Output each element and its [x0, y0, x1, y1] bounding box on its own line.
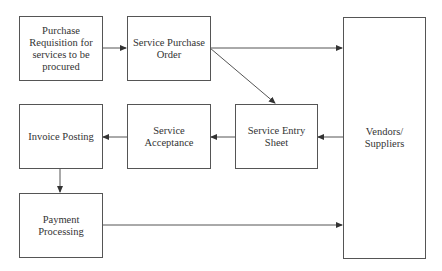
node-payment-processing: Payment Processing	[19, 193, 103, 258]
node-label: Vendors/ Suppliers	[360, 126, 410, 150]
edge-po-to-entry-sheet	[210, 48, 275, 103]
node-invoice-posting: Invoice Posting	[19, 104, 103, 169]
node-label: Service Purchase Order	[132, 37, 206, 61]
node-purchase-requisition: Purchase Requisition for services to be …	[19, 16, 103, 81]
node-service-acceptance: Service Acceptance	[127, 104, 211, 169]
node-label: Purchase Requisition for services to be …	[24, 25, 98, 73]
node-label: Invoice Posting	[28, 131, 94, 143]
node-service-purchase-order: Service Purchase Order	[127, 16, 211, 81]
node-label: Service Entry Sheet	[244, 125, 310, 149]
node-label: Payment Processing	[31, 214, 91, 238]
flowchart-canvas: Purchase Requisition for services to be …	[0, 0, 442, 271]
node-vendors-suppliers: Vendors/ Suppliers	[343, 17, 426, 259]
node-label: Service Acceptance	[137, 125, 201, 149]
node-service-entry-sheet: Service Entry Sheet	[235, 104, 318, 169]
